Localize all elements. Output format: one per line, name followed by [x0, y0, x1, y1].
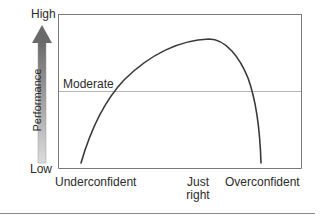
x-axis-overconfident-label: Overconfident	[225, 176, 300, 189]
x-axis-underconfident-label: Underconfident	[55, 176, 136, 189]
just-right-line2: right	[184, 189, 212, 202]
x-axis-just-right-label: Just right	[184, 176, 212, 202]
y-axis-low-label: Low	[30, 163, 52, 176]
moderate-label: Moderate	[63, 78, 114, 91]
performance-curve	[81, 39, 261, 163]
y-axis-high-label: High	[31, 8, 56, 21]
y-axis-title: Performance	[31, 65, 43, 135]
